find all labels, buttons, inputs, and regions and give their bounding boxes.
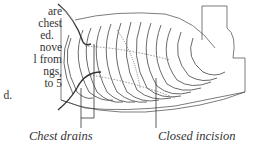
text-line: d. xyxy=(3,89,12,101)
label-chest-drains: Chest drains xyxy=(29,129,93,144)
chest-wall-illustration xyxy=(55,0,257,128)
ribs-icon xyxy=(64,22,225,102)
label-closed-incision: Closed incision xyxy=(158,129,235,144)
leader-lines xyxy=(81,44,156,128)
text-line: ed. xyxy=(40,29,54,41)
